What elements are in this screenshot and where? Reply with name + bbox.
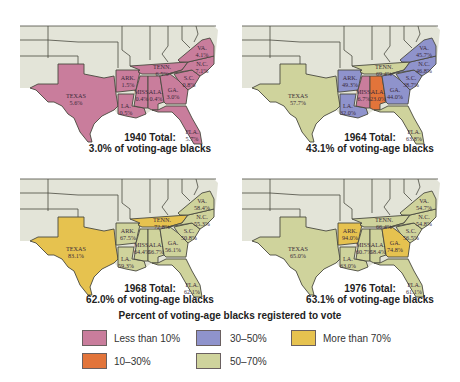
state-value-nc: 7.1% — [196, 67, 209, 74]
state-value-nc: 55.3% — [194, 220, 210, 227]
state-value-ga: 56.1% — [165, 246, 181, 253]
legend-label-less-than-10: Less than 10% — [114, 333, 180, 344]
state-value-la: 32.0% — [340, 109, 356, 116]
state-value-tn: 69.4% — [376, 70, 392, 77]
legend-label-50-70: 50–70% — [230, 356, 267, 367]
state-value-ms: 0.4% — [136, 95, 149, 102]
state-value-ar: 1.5% — [122, 81, 135, 88]
legend-swatch-30-50 — [196, 330, 221, 346]
state-value-tn: 6.5% — [156, 70, 169, 77]
state-value-tn: 72.8% — [154, 223, 170, 230]
state-value-va: 54.7% — [416, 204, 432, 211]
state-value-tx: 5.6% — [70, 99, 83, 106]
state-value-ar: 49.3% — [342, 81, 358, 88]
state-value-la: 0.5% — [120, 109, 133, 116]
legend-label-more-than-70: More than 70% — [323, 333, 391, 344]
state-value-ms: 6.7% — [358, 95, 371, 102]
state-value-sc: 56.5% — [403, 234, 419, 241]
state-value-la: 63.0% — [340, 262, 356, 269]
state-value-sc: 38.7% — [403, 81, 419, 88]
legend-swatch-more-than-70 — [291, 330, 316, 346]
legend-swatch-50-70 — [196, 353, 221, 369]
state-value-al: 0.4% — [150, 95, 163, 102]
state-value-tx: 65.0% — [290, 252, 306, 259]
legend-label-30-50: 30–50% — [230, 333, 267, 344]
state-value-al: 23.0% — [370, 95, 386, 102]
state-value-al: 56.7% — [148, 248, 164, 255]
state-value-ga: 3.0% — [167, 93, 180, 100]
state-value-va: 58.4% — [194, 204, 210, 211]
state-value-ga: 44.0% — [387, 93, 403, 100]
state-value-va: 4.1% — [196, 51, 209, 58]
total-1964: 1964 Total: 43.1% of voting-age blacks — [300, 132, 440, 154]
legend-swatch-10-30 — [82, 353, 107, 369]
state-value-ar: 67.5% — [120, 234, 136, 241]
legend-swatch-less-than-10 — [82, 330, 107, 346]
state-value-tx: 83.1% — [68, 252, 84, 259]
total-1976: 1976 Total: 63.1% of voting-age blacks — [300, 283, 440, 305]
state-value-nc: 54.8% — [416, 220, 432, 227]
state-value-ga: 74.8% — [387, 246, 403, 253]
total-1940: 1940 Total: 3.0% of voting-age blacks — [80, 132, 220, 154]
state-value-sc: 0.8% — [183, 81, 196, 88]
state-value-la: 59.3% — [118, 262, 134, 269]
legend-label-10-30: 10–30% — [114, 356, 151, 367]
state-value-tx: 57.7% — [290, 99, 306, 106]
state-value-al: 58.4% — [370, 248, 386, 255]
state-value-ar: 94.0% — [342, 234, 358, 241]
state-value-sc: 50.8% — [181, 234, 197, 241]
legend-title: Percent of voting-age blacks registered … — [0, 310, 460, 321]
state-value-nc: 46.8% — [416, 67, 432, 74]
total-1968: 1968 Total: 62.0% of voting-age blacks — [80, 283, 220, 305]
state-value-tn: 66.4% — [376, 223, 392, 230]
state-value-va: 45.7% — [416, 51, 432, 58]
